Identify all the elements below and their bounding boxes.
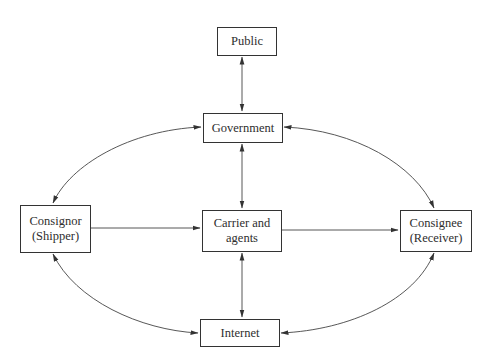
edge-consignee-internet (281, 253, 434, 333)
edge-government-consignor (53, 127, 201, 203)
node-consignor: Consignor (Shipper) (20, 205, 91, 253)
node-carrier-label-2: agents (226, 231, 258, 246)
node-government-label: Government (212, 121, 274, 136)
diagram-canvas: Public Government Consignor (Shipper) Ca… (0, 0, 487, 360)
node-public: Public (217, 27, 277, 56)
edge-government-consignee (284, 127, 434, 208)
node-public-label: Public (231, 34, 263, 49)
node-consignor-label-2: (Shipper) (32, 229, 79, 244)
edge-consignor-internet (53, 254, 198, 333)
node-consignee-label-1: Consignee (410, 216, 463, 231)
node-government: Government (203, 113, 283, 143)
node-internet: Internet (200, 319, 280, 347)
node-consignor-label-1: Consignor (29, 214, 81, 229)
node-carrier: Carrier and agents (202, 210, 282, 252)
node-consignee-label-2: (Receiver) (410, 231, 463, 246)
node-consignee: Consignee (Receiver) (400, 210, 472, 252)
node-carrier-label-1: Carrier and (214, 216, 271, 231)
node-internet-label: Internet (221, 326, 260, 341)
